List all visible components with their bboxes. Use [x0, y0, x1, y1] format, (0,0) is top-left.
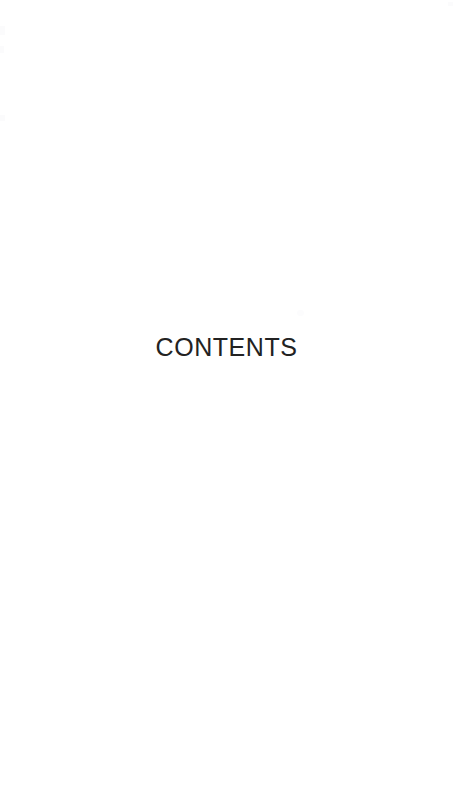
- scan-artifact: [0, 26, 5, 35]
- scan-artifact: [0, 46, 4, 53]
- scan-artifact: [297, 310, 304, 316]
- scan-artifact: [0, 115, 5, 121]
- page-title-container: CONTENTS: [0, 330, 453, 364]
- book-page: CONTENTS: [0, 0, 453, 792]
- scan-artifact: [448, 2, 453, 6]
- page-title: CONTENTS: [156, 330, 298, 364]
